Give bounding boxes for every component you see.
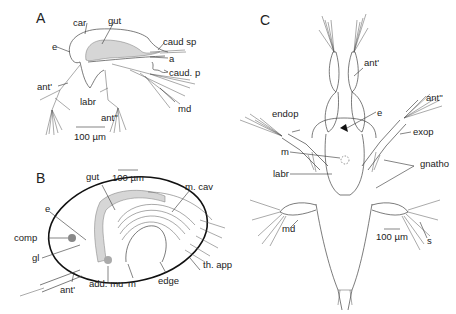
panel-a-label: A — [36, 10, 46, 26]
mantle-cavity-opening — [126, 226, 166, 262]
label-edge: edge — [158, 275, 179, 286]
label-labr-c: labr — [273, 168, 289, 179]
antennule-right — [348, 52, 358, 92]
labrum-shape — [80, 62, 104, 88]
label-s: s — [427, 235, 432, 246]
label-add-mu: add. mu — [89, 278, 123, 289]
antenna-right — [362, 120, 406, 170]
label-m-cav: m. cav — [185, 181, 213, 192]
label-e: e — [52, 41, 57, 52]
label-a: a — [169, 53, 175, 64]
label-md: md — [178, 103, 191, 114]
label-exop: exop — [413, 126, 434, 137]
label-md-c: md — [282, 223, 295, 234]
scale-label-b: 100 µm — [112, 172, 144, 183]
mandible-right — [372, 203, 408, 215]
label-caud-sp: caud sp — [163, 36, 196, 47]
label-ant2: ant'' — [101, 112, 118, 123]
panel-b: B gut m. cav e comp gl th. — [14, 165, 232, 296]
label-labr: labr — [80, 96, 96, 107]
compound-eye — [68, 234, 76, 242]
label-gl: gl — [32, 252, 39, 263]
antennule-a — [40, 65, 80, 135]
label-gut: gut — [108, 15, 122, 26]
mandible-left — [280, 203, 316, 215]
label-endop: endop — [272, 108, 298, 119]
mouth — [341, 156, 349, 164]
label-comp: comp — [14, 232, 37, 243]
panel-b-label: B — [36, 170, 45, 186]
label-gut-b: gut — [86, 171, 100, 182]
panel-a: A car gut e caud sp a caud. p ant' labr … — [36, 10, 200, 142]
label-caud-p: caud. p — [169, 67, 200, 78]
label-ant2-c: ant'' — [426, 92, 443, 103]
adductor-muscle — [104, 256, 112, 264]
head-shield — [325, 134, 364, 195]
nauplius-eye — [340, 124, 348, 132]
label-ant1-b: ant' — [60, 284, 75, 295]
label-ant1: ant' — [37, 81, 52, 92]
label-ant1-c: ant' — [364, 57, 379, 68]
antenna-a — [100, 70, 126, 133]
label-th-app: th. app — [203, 259, 232, 270]
label-gnatho: gnatho — [420, 158, 449, 169]
label-car: car — [73, 17, 86, 28]
trunk — [316, 204, 372, 310]
panel-c: C — [240, 12, 449, 310]
label-e-c: e — [377, 107, 382, 118]
caudal-furca — [338, 290, 352, 305]
gut-shape — [86, 40, 160, 61]
label-m-b: m — [128, 278, 136, 289]
label-m-c: m — [281, 146, 289, 157]
panel-c-label: C — [260, 12, 270, 28]
antennule-left — [329, 52, 339, 92]
figure-canvas: A car gut e caud sp a caud. p ant' labr … — [0, 0, 456, 314]
scale-label-a: 100 µm — [74, 131, 106, 142]
label-e-b: e — [45, 203, 50, 214]
scale-label-c: 100 µm — [376, 231, 408, 242]
